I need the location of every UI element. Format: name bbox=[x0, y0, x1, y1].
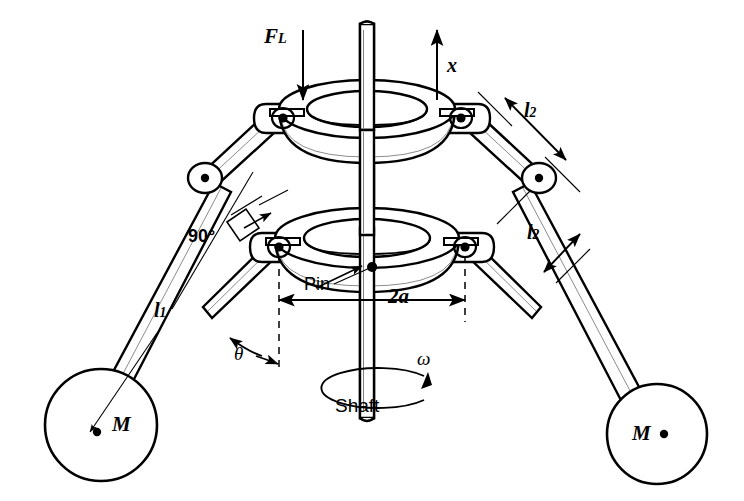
elbow-joint-right bbox=[522, 163, 556, 193]
lift-force-label: FL bbox=[264, 26, 287, 47]
arm-length-left-label: l1 bbox=[154, 300, 166, 320]
ball-arm-right bbox=[513, 183, 646, 410]
omega-label: ω bbox=[417, 349, 430, 368]
span-dimension-label: 2a bbox=[388, 286, 409, 307]
mass-left-label: M bbox=[112, 414, 131, 435]
link-length-lower-right-label: l2 bbox=[527, 222, 539, 242]
pin-label: Pin bbox=[304, 275, 330, 293]
mass-ball-right bbox=[607, 384, 707, 484]
displacement-label: x bbox=[447, 55, 457, 75]
shaft-through-upper-collar bbox=[360, 22, 374, 131]
shaft-between-collars bbox=[360, 130, 374, 235]
link-length-upper-right-label: l2 bbox=[524, 100, 536, 120]
mass-right-label: M bbox=[632, 423, 651, 444]
shaft-through-lower-collar bbox=[360, 228, 377, 421]
shaft-label: Shaft bbox=[335, 396, 379, 415]
governor-diagram: FL x l2 l2 l1 90° Pin 2a θ ω Shaft M M bbox=[0, 0, 744, 501]
elbow-joint-left bbox=[188, 163, 222, 193]
right-angle-label: 90° bbox=[188, 227, 215, 245]
theta-label: θ bbox=[234, 344, 243, 363]
mass-ball-left bbox=[45, 369, 157, 481]
